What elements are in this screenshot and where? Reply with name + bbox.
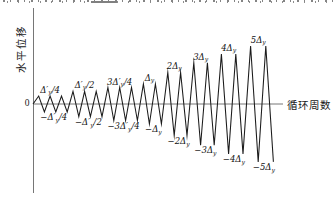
trough-label: −Δ′y/4 <box>40 113 67 122</box>
y-axis-label: 水平位移 <box>13 25 28 73</box>
loading-protocol-chart <box>0 0 335 198</box>
peak-label: Δ′y/2 <box>75 81 95 90</box>
trough-label: −4Δy <box>223 155 245 164</box>
trough-label: −2Δy <box>168 137 190 146</box>
peak-label: Δy <box>145 74 155 83</box>
peak-label: 4Δy <box>221 44 236 53</box>
peak-label: 2Δy <box>167 62 182 71</box>
peak-label: Δ′y/4 <box>40 86 60 95</box>
origin-label: 0 <box>25 98 30 108</box>
peak-label: 5Δy <box>251 36 266 45</box>
trough-label: −5Δy <box>253 163 275 172</box>
trough-label: −3Δ′y/4 <box>107 122 139 131</box>
trough-label: −3Δy <box>194 146 216 155</box>
trough-label: −Δ′y/2 <box>75 118 102 127</box>
trough-label: −Δy <box>145 125 162 134</box>
x-axis-label: 循环周数 <box>287 97 331 112</box>
figure: Δ′y/4−Δ′y/4Δ′y/2−Δ′y/23Δ′y/4−3Δ′y/4Δy−Δy… <box>0 0 335 198</box>
peak-label: 3Δ′y/4 <box>107 77 132 86</box>
peak-label: 3Δy <box>193 52 208 61</box>
